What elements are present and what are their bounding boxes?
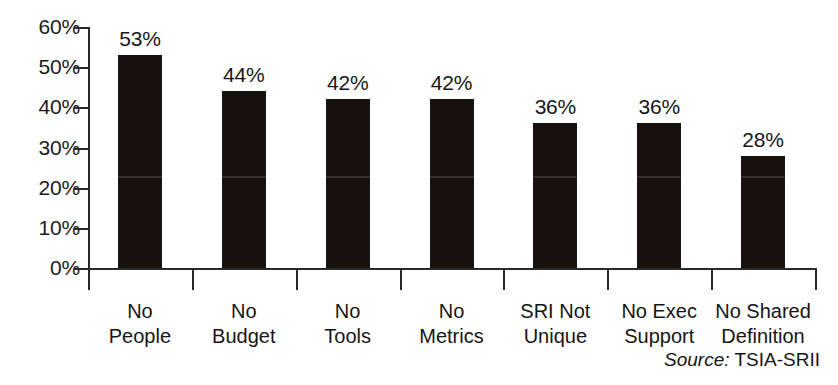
bar-value-label: 42% xyxy=(327,71,368,95)
scan-artifact-line xyxy=(533,176,577,178)
y-axis-tick-mark xyxy=(74,67,88,69)
y-axis-tick-mark xyxy=(74,228,88,230)
category-label-line: No xyxy=(324,299,371,324)
bar xyxy=(741,156,785,268)
x-axis-category-label: No SharedDefinition xyxy=(715,299,811,349)
bar xyxy=(118,55,162,268)
source-note: Source: TSIA-SRII xyxy=(664,349,820,371)
scan-artifact-line xyxy=(118,176,162,178)
x-axis-tick-mark xyxy=(607,268,609,290)
y-axis-tick-mark xyxy=(74,148,88,150)
bar xyxy=(430,99,474,268)
bar xyxy=(533,123,577,268)
x-axis-category-label: NoMetrics xyxy=(419,299,483,349)
bar xyxy=(637,123,681,268)
scan-artifact-line xyxy=(430,176,474,178)
x-axis-tick-mark xyxy=(192,268,194,290)
category-label-line: Metrics xyxy=(419,324,483,349)
x-axis-tick-mark xyxy=(503,268,505,290)
y-axis-tick-mark xyxy=(74,107,88,109)
category-label-line: SRI Not xyxy=(520,299,590,324)
category-label-line: Definition xyxy=(715,324,811,349)
x-axis-category-label: SRI NotUnique xyxy=(520,299,590,349)
x-axis-category-label: NoPeople xyxy=(109,299,171,349)
bar xyxy=(326,99,370,268)
x-axis-category-label: NoBudget xyxy=(212,299,275,349)
bar-value-label: 36% xyxy=(638,95,679,119)
x-axis-tick-mark xyxy=(88,268,90,290)
scan-artifact-line xyxy=(222,176,266,178)
y-axis-tick-mark xyxy=(74,188,88,190)
bar-value-label: 42% xyxy=(431,71,472,95)
category-label-line: Budget xyxy=(212,324,275,349)
category-label-line: No xyxy=(419,299,483,324)
category-label-line: No Shared xyxy=(715,299,811,324)
y-axis-spine xyxy=(88,27,90,270)
x-axis-category-label: NoTools xyxy=(324,299,371,349)
source-value: TSIA-SRII xyxy=(730,349,820,370)
category-label-line: No xyxy=(109,299,171,324)
bar xyxy=(222,91,266,268)
scan-artifact-line xyxy=(741,176,785,178)
category-label-line: Support xyxy=(621,324,697,349)
y-axis-tick-labels: 60%50%40%30%20%10%0% xyxy=(0,0,80,385)
bar-chart: 60%50%40%30%20%10%0% 53%44%42%42%36%36%2… xyxy=(0,0,838,385)
scan-artifact-line xyxy=(326,176,370,178)
category-label-line: People xyxy=(109,324,171,349)
category-label-line: No Exec xyxy=(621,299,697,324)
x-axis-category-label: No ExecSupport xyxy=(621,299,697,349)
y-axis-tick-mark xyxy=(74,27,88,29)
bar-value-label: 28% xyxy=(742,128,783,152)
x-axis-tick-mark xyxy=(711,268,713,290)
bar-value-label: 36% xyxy=(535,95,576,119)
category-label-line: No xyxy=(212,299,275,324)
category-label-line: Unique xyxy=(520,324,590,349)
y-axis-tick-mark xyxy=(74,268,88,270)
x-axis-tick-mark xyxy=(815,268,817,290)
x-axis-tick-mark xyxy=(400,268,402,290)
category-label-line: Tools xyxy=(324,324,371,349)
x-axis-tick-mark xyxy=(296,268,298,290)
scan-artifact-line xyxy=(637,176,681,178)
bar-value-label: 44% xyxy=(223,63,264,87)
x-axis-baseline xyxy=(88,268,815,270)
bar-value-label: 53% xyxy=(119,27,160,51)
source-prefix: Source: xyxy=(664,349,729,370)
